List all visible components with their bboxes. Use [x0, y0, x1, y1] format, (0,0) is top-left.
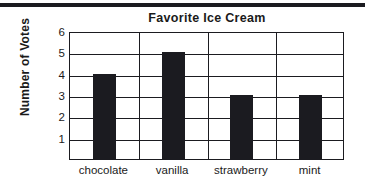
- y-tick-label: 1: [47, 133, 65, 145]
- y-tick-label: 6: [47, 26, 65, 38]
- category-divider: [139, 33, 140, 159]
- worksheet-page: Favorite Ice Cream Number of Votes 65432…: [0, 0, 365, 194]
- category-divider: [208, 33, 209, 159]
- bar-strawberry: [230, 95, 253, 159]
- y-tick-label: 3: [47, 90, 65, 102]
- category-divider: [276, 33, 277, 159]
- plot-area: [69, 32, 344, 160]
- bar-chocolate: [93, 74, 116, 159]
- bar-mint: [299, 95, 322, 159]
- top-rule-divider: [0, 3, 365, 7]
- x-tick-label-strawberry: strawberry: [207, 163, 276, 177]
- chart-title: Favorite Ice Cream: [69, 11, 345, 26]
- x-axis-tick-labels: chocolatevanillastrawberrymint: [69, 163, 344, 181]
- y-tick-label: 5: [47, 47, 65, 59]
- y-tick-label: 2: [47, 111, 65, 123]
- y-axis-title: Number of Votes: [18, 12, 32, 122]
- x-tick-label-mint: mint: [275, 163, 344, 177]
- x-tick-label-vanilla: vanilla: [138, 163, 207, 177]
- gridline: [70, 54, 343, 55]
- x-tick-label-chocolate: chocolate: [69, 163, 138, 177]
- y-tick-label: 4: [47, 69, 65, 81]
- y-axis-tick-labels: 654321: [44, 32, 65, 160]
- bar-vanilla: [162, 52, 185, 159]
